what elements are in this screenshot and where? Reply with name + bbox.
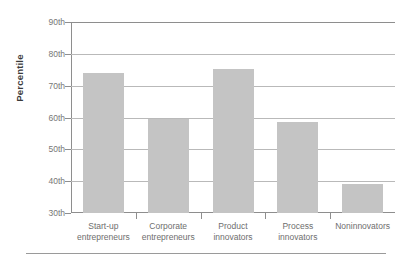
bar (213, 69, 254, 213)
x-axis-category-label-line: innovators (265, 232, 330, 243)
y-axis-tick (65, 86, 71, 87)
x-axis-category-label-line: Start-up (71, 221, 136, 232)
x-axis-category-label-line: Process (265, 221, 330, 232)
y-axis-tick (65, 54, 71, 55)
bar-chart-figure: Percentile 30th40th50th60th70th80th90th … (0, 0, 410, 266)
x-axis-category-label-line: Corporate (136, 221, 201, 232)
x-axis-category-labels: Start-upentrepreneursCorporateentreprene… (71, 221, 395, 249)
x-axis-category-label-line: innovators (201, 232, 266, 243)
x-axis-category-label: Productinnovators (201, 221, 266, 243)
y-axis-tick-label: 60th (21, 113, 65, 123)
x-axis-category-label: Corporateentrepreneurs (136, 221, 201, 243)
y-axis-tick (65, 22, 71, 23)
y-axis-tick-label: 90th (21, 17, 65, 27)
y-axis-tick-label: 30th (21, 208, 65, 218)
bar (83, 73, 124, 213)
x-axis-category-label-line: Noninnovators (330, 221, 395, 232)
x-axis-category-label: Start-upentrepreneurs (71, 221, 136, 243)
y-axis-tick-label: 70th (21, 81, 65, 91)
x-axis-category-label-line: entrepreneurs (136, 232, 201, 243)
x-axis-tick (330, 213, 331, 219)
x-axis-category-label: Processinnovators (265, 221, 330, 243)
x-axis-category-label-line: Product (201, 221, 266, 232)
x-axis-tick (201, 213, 202, 219)
bar (148, 119, 189, 213)
gridline (71, 22, 395, 23)
y-axis-tick-label: 40th (21, 176, 65, 186)
x-axis-category-label: Noninnovators (330, 221, 395, 232)
y-axis-tick-labels: 30th40th50th60th70th80th90th (21, 22, 65, 213)
y-axis-tick-label: 50th (21, 144, 65, 154)
x-axis-category-label-line: entrepreneurs (71, 232, 136, 243)
y-axis-tick (65, 181, 71, 182)
y-axis-tick (65, 213, 71, 214)
bar (277, 122, 318, 213)
footer-divider (26, 253, 386, 254)
gridline (71, 54, 395, 55)
x-axis-tick (265, 213, 266, 219)
y-axis-tick (65, 118, 71, 119)
plot-area (71, 22, 395, 213)
y-axis-tick (65, 149, 71, 150)
bar (342, 184, 383, 213)
x-axis-tick (136, 213, 137, 219)
y-axis-tick-label: 80th (21, 49, 65, 59)
